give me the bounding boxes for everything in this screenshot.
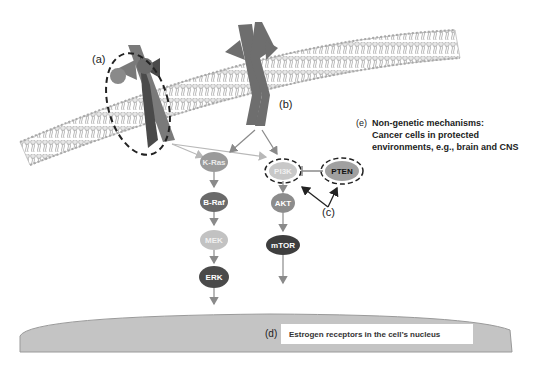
label-c: (c) [322, 206, 335, 218]
node-mek: MEK [200, 230, 228, 250]
svg-text:ERK: ERK [206, 273, 223, 282]
label-e: (e) [356, 118, 367, 128]
pathway-diagram: K-Ras B-Raf MEK ERK PI3K AKT mTOR PTEN [0, 0, 546, 366]
receptor-arrows [172, 130, 277, 157]
node-mtor: mTOR [266, 235, 300, 255]
annotation-e-line1: Non-genetic mechanisms: [372, 118, 484, 128]
svg-text:MEK: MEK [205, 236, 223, 245]
ligand-icon [110, 68, 126, 84]
label-b: (b) [279, 98, 292, 110]
pointer-c [302, 187, 337, 207]
svg-text:AKT: AKT [275, 199, 292, 208]
ligand-icon [137, 58, 153, 74]
node-braf: B-Raf [200, 192, 228, 212]
svg-text:K-Ras: K-Ras [202, 158, 226, 167]
annotation-e-line2: Cancer cells in protected [372, 130, 479, 140]
node-pten: PTEN [325, 161, 359, 181]
inhibition-edge [302, 166, 323, 176]
annotation-e-line3: environments, e.g., brain and CNS [372, 142, 519, 152]
annotation-d: Estrogen receptors in the cell’s nucleus [289, 330, 441, 339]
node-akt: AKT [271, 193, 295, 213]
svg-text:PI3K: PI3K [274, 167, 292, 176]
svg-text:PTEN: PTEN [331, 167, 353, 176]
node-kras: K-Ras [200, 152, 228, 172]
label-a: (a) [92, 53, 105, 65]
node-erk: ERK [199, 266, 229, 288]
svg-text:B-Raf: B-Raf [203, 198, 225, 207]
label-d: (d) [265, 328, 277, 339]
svg-text:mTOR: mTOR [271, 241, 295, 250]
node-pi3k: PI3K [269, 162, 297, 180]
